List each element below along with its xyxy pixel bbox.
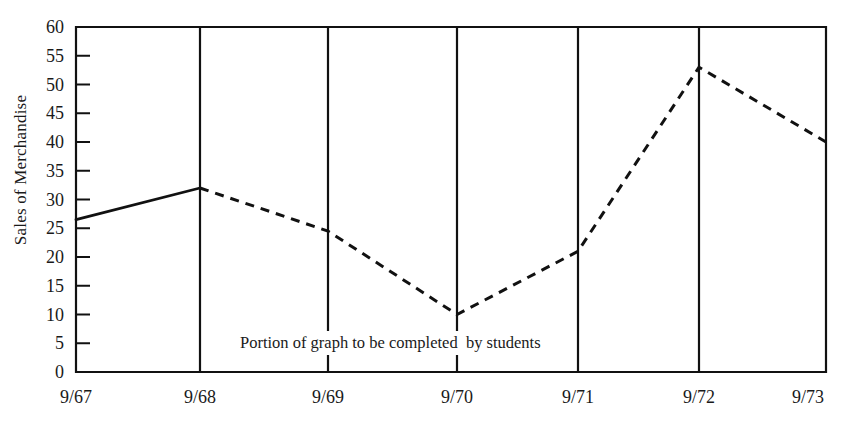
x-tick-label: 9/71	[562, 388, 594, 406]
x-tick-label: 9/70	[441, 388, 473, 406]
chart-figure: Sales of Merchandise 0 5 10 15 20 25 30 …	[0, 0, 847, 437]
x-tick-label: 9/67	[60, 388, 92, 406]
x-tick-label: 9/69	[312, 388, 344, 406]
chart-annotation: Portion of graph to be completed by stud…	[236, 331, 545, 355]
x-axis-tick-labels: 9/67 9/68 9/69 9/70 9/71 9/72 9/73	[0, 0, 847, 437]
x-tick-label: 9/68	[184, 388, 216, 406]
x-tick-label: 9/73	[792, 388, 824, 406]
x-tick-label: 9/72	[683, 388, 715, 406]
